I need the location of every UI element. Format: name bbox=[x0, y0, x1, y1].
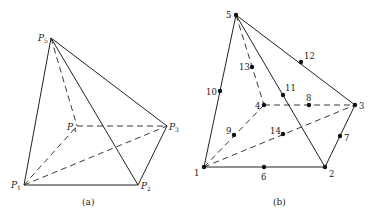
tetrahedron-figure: P5 P4 P3 P1 P2 (a) bbox=[0, 0, 373, 218]
hidden-edge-p1-p4 bbox=[24, 126, 77, 185]
node-7 bbox=[338, 134, 342, 138]
node-label-14: 14 bbox=[270, 126, 281, 136]
hidden-edge-5-4 bbox=[236, 15, 264, 105]
hidden-edge-1-3 bbox=[204, 105, 355, 167]
vertex-label-p5: P5 bbox=[37, 33, 48, 44]
panel-b: 1 2 3 4 5 6 7 8 9 10 11 12 13 14 (b) bbox=[194, 10, 364, 207]
node-11 bbox=[281, 93, 285, 97]
caption-a: (a) bbox=[82, 197, 94, 207]
edge-p5-p2 bbox=[51, 38, 138, 185]
node-13 bbox=[250, 65, 254, 69]
node-12 bbox=[299, 60, 303, 64]
node-10 bbox=[218, 89, 222, 93]
edge-p2-p3 bbox=[138, 126, 167, 185]
vertex-label-p4: P4 bbox=[66, 122, 77, 133]
node-label-10: 10 bbox=[206, 87, 217, 97]
node-label-8: 8 bbox=[306, 93, 311, 103]
node-label-11: 11 bbox=[285, 83, 296, 93]
node-label-13: 13 bbox=[239, 62, 250, 72]
hidden-edge-p5-p4 bbox=[51, 38, 77, 126]
edge-p5-p1 bbox=[24, 38, 51, 185]
node-6 bbox=[262, 165, 266, 169]
node-8 bbox=[307, 103, 311, 107]
node-label-2: 2 bbox=[329, 169, 334, 179]
node-1 bbox=[202, 165, 206, 169]
edge-p5-p3 bbox=[51, 38, 167, 126]
node-4 bbox=[262, 103, 266, 107]
vertex-label-p3: P3 bbox=[168, 122, 179, 133]
panel-a: P5 P4 P3 P1 P2 (a) bbox=[10, 33, 179, 207]
vertex-label-p2: P2 bbox=[140, 181, 151, 192]
node-label-1: 1 bbox=[194, 168, 199, 178]
node-label-12: 12 bbox=[304, 51, 315, 61]
node-5 bbox=[234, 13, 238, 17]
node-label-6: 6 bbox=[261, 172, 266, 182]
node-label-5: 5 bbox=[226, 10, 231, 20]
node-9 bbox=[232, 133, 236, 137]
node-3 bbox=[353, 103, 357, 107]
node-14 bbox=[281, 132, 285, 136]
hidden-edge-p1-p3 bbox=[24, 126, 167, 185]
node-2 bbox=[323, 165, 327, 169]
edge-5-2 bbox=[236, 15, 325, 167]
node-label-9: 9 bbox=[226, 126, 231, 136]
node-label-7: 7 bbox=[344, 133, 349, 143]
node-label-3: 3 bbox=[359, 101, 364, 111]
caption-b: (b) bbox=[273, 197, 286, 207]
node-dots bbox=[202, 13, 357, 169]
node-label-4: 4 bbox=[255, 101, 260, 111]
vertex-label-p1: P1 bbox=[10, 180, 21, 191]
